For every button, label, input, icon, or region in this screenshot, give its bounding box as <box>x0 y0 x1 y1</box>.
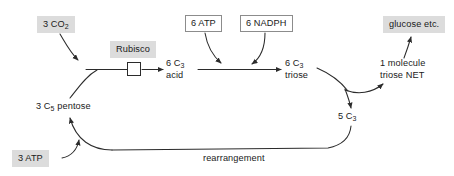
rubisco-enzyme-square <box>127 62 141 76</box>
edge-c3triose-to-branch <box>317 68 348 91</box>
edge-co2-to-junction <box>60 34 78 60</box>
node-c3-acid-line2: acid <box>166 70 185 82</box>
node-c3-acid: 6 C3 acid <box>166 58 185 81</box>
calvin-cycle-diagram: 3 CO2 Rubisco 6 ATP 6 NADPH glucose etc.… <box>0 0 454 176</box>
edge-atp-into-regeneration <box>62 140 79 158</box>
node-c3-triose: 6 C3 triose <box>285 58 308 81</box>
node-c3-triose-line1: 6 C3 <box>285 58 308 70</box>
node-c3-five: 5 C3 <box>338 111 357 122</box>
edge-branch-to-net <box>345 84 383 93</box>
edge-regeneration-to-pentose <box>70 118 112 150</box>
node-net-triose-line1: 1 molecule <box>380 58 425 70</box>
node-atp-bottom: 3 ATP <box>12 150 49 167</box>
edge-pentose-to-junction <box>70 70 97 98</box>
node-c3-acid-line1: 6 C3 <box>166 58 185 70</box>
edge-nadph-into-reduction <box>252 33 265 64</box>
node-glucose: glucose etc. <box>383 16 445 33</box>
node-rubisco: Rubisco <box>110 41 156 58</box>
edge-atp-into-reduction <box>205 33 221 63</box>
node-net-triose: 1 molecule triose NET <box>380 58 425 81</box>
node-c5-pentose: 3 C5 pentose <box>36 101 91 112</box>
node-net-triose-line2: triose NET <box>380 70 425 82</box>
node-nadph-top: 6 NADPH <box>240 15 293 32</box>
label-rearrangement: rearrangement <box>203 153 265 164</box>
node-co2: 3 CO2 <box>37 16 75 33</box>
edge-5c3-rearrangement-return <box>112 126 351 150</box>
node-atp-top: 6 ATP <box>185 15 222 32</box>
node-c3-triose-line2: triose <box>285 70 308 82</box>
edge-net-to-glucose <box>404 37 411 58</box>
